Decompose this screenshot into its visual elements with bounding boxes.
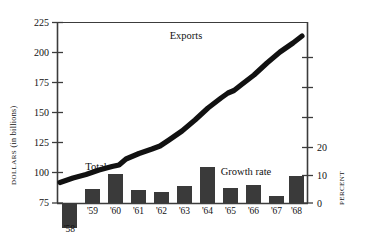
bar-1959 — [85, 189, 100, 203]
right-tick-label-0: 0 — [317, 198, 322, 209]
bar-1964 — [200, 167, 215, 203]
year-label-1958: '58 — [64, 224, 75, 234]
left-tick-label-100: 100 — [34, 167, 49, 178]
year-label-1959: '59 — [87, 206, 98, 216]
right-axis-title: PERCENT — [338, 171, 346, 205]
left-tick-label-150: 150 — [34, 107, 49, 118]
right-tick-label-10: 10 — [317, 170, 327, 181]
bar-1962 — [154, 192, 169, 203]
left-axis-title: DOLLARS (in billions) — [9, 105, 18, 185]
bar-1961 — [131, 190, 146, 203]
bar-1966 — [246, 185, 261, 203]
exports-growth-chart: 225 200 175 150 125 100 75 20 10 0 — [0, 0, 366, 249]
left-tick-label-200: 200 — [34, 47, 49, 58]
left-axis-title-caps: DOLLARS — [10, 150, 18, 185]
left-tick-label-175: 175 — [34, 77, 49, 88]
year-label-1963: '63 — [179, 206, 190, 216]
left-tick-label-125: 125 — [34, 137, 49, 148]
bar-1968 — [289, 176, 304, 203]
year-label-1962: '62 — [156, 206, 167, 216]
year-label-1960: '60 — [110, 206, 121, 216]
bar-1963 — [177, 186, 192, 203]
bar-1960 — [108, 174, 123, 203]
bar-1965 — [223, 188, 238, 203]
year-label-1968: '68 — [291, 206, 302, 216]
total-annotation-label: Total — [85, 161, 107, 172]
left-tick-label-225: 225 — [34, 17, 49, 28]
left-axis-title-rest: (in billions) — [9, 105, 18, 149]
right-tick-label-20: 20 — [317, 142, 327, 153]
year-label-1961: '61 — [133, 206, 144, 216]
year-label-1965: '65 — [225, 206, 236, 216]
growth-rate-annotation-label: Growth rate — [221, 166, 272, 177]
exports-annotation-label: Exports — [170, 30, 203, 41]
year-label-1967: '67 — [271, 206, 282, 216]
bar-1967 — [269, 196, 284, 203]
left-axis-title-group: DOLLARS (in billions) — [9, 105, 18, 185]
left-tick-label-75: 75 — [39, 197, 49, 208]
right-axis-title-group: PERCENT — [338, 171, 346, 205]
chart-container: 225 200 175 150 125 100 75 20 10 0 — [0, 0, 366, 249]
year-label-1966: '66 — [248, 206, 259, 216]
year-label-1964: '64 — [202, 206, 213, 216]
